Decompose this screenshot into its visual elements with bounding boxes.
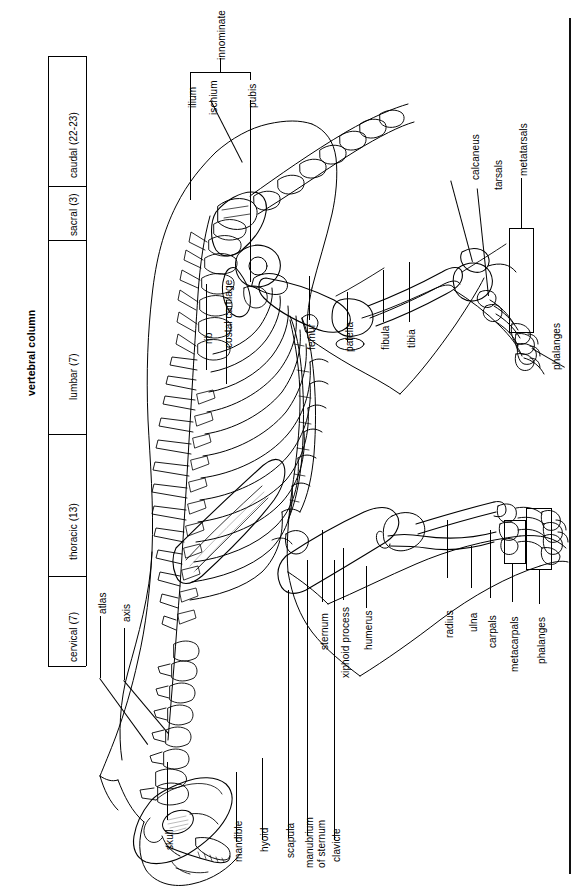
- tarsals-leader: [477, 188, 489, 296]
- metacarpals-label: metacarpals: [509, 616, 520, 672]
- axis-leader: [124, 628, 125, 680]
- innominate-bracket-bar: [190, 72, 250, 73]
- atlas-leader: [100, 616, 101, 678]
- xiphoid-process-leader: [343, 548, 344, 600]
- page-margin-rule: [569, 18, 571, 874]
- metatarsals-leader: [521, 178, 522, 228]
- innominate-bracket-right-tick: [250, 72, 251, 80]
- clavicle-label: clavicle: [331, 828, 342, 862]
- mandible-label: mandible: [233, 821, 244, 862]
- metacarpals-bracket-box: [504, 520, 526, 564]
- bracket-inner-lumbar: [86, 240, 87, 434]
- bracket-inner-thoracic: [86, 434, 87, 576]
- rib-label: rib: [203, 333, 214, 344]
- scapula-label: scapula: [285, 823, 296, 858]
- hyoid-label: hyoid: [259, 828, 270, 852]
- bracket-inner-caudal: [86, 56, 87, 186]
- vertebral-region-lumbar: lumbar (7): [68, 353, 79, 400]
- fibula-leader: [383, 270, 384, 322]
- innominate-bracket-left-tick: [190, 72, 191, 80]
- bracket-tick-bottom: [48, 666, 86, 667]
- calcaneus-leader: [450, 181, 473, 262]
- radius-leader: [447, 520, 448, 578]
- carpals-label: carpals: [487, 615, 498, 648]
- hind-phalanges-label: phalanges: [551, 323, 562, 370]
- atlas-label: atlas: [97, 592, 108, 614]
- vertebral-column-heading: vertebral column: [26, 310, 37, 396]
- ulna-leader: [471, 546, 472, 588]
- front-phalanges-bracket-box: [526, 508, 552, 570]
- metatarsals-bracket-box: [509, 228, 534, 333]
- manubrium-label-line2: of sternum: [316, 820, 327, 868]
- bracket-tick-sacral-lumbar: [48, 240, 86, 241]
- scapula-leader: [288, 590, 289, 838]
- skull-leader: [167, 762, 168, 820]
- carpals-leader: [490, 530, 491, 598]
- humerus-label: humerus: [363, 610, 374, 650]
- bracket-tick-top: [48, 56, 86, 57]
- tibia-label: tibia: [406, 329, 417, 348]
- innominate-bracket-stem: [220, 58, 221, 72]
- costal-cartilage-label: costal cartilage: [223, 280, 234, 348]
- manubrium-label: manubrium: [304, 817, 315, 868]
- tarsals-label: tarsals: [493, 160, 504, 190]
- vertebral-region-cervical: cervical (7): [68, 612, 79, 662]
- humerus-leader: [366, 566, 367, 608]
- femur-leader: [309, 276, 310, 320]
- vertebral-region-caudal: caudal (22-23): [68, 112, 79, 178]
- front-phalanges-label: phalanges: [536, 617, 547, 664]
- calcaneus-label: calcaneus: [470, 134, 481, 180]
- vertebral-region-sacral: sacral (3): [68, 193, 79, 236]
- bracket-tick-lumbar-thoracic: [48, 434, 86, 435]
- metacarpals-leader: [512, 564, 513, 602]
- sternum-label: sternum: [319, 613, 330, 650]
- femur-label: femur: [306, 324, 317, 350]
- patella-label: patella: [344, 322, 355, 352]
- figure-page: vertebral column caudal (22-23) sacral (…: [0, 0, 580, 892]
- bracket-tick-caudal-sacral: [48, 186, 86, 187]
- vertebral-bracket-spine: [48, 56, 49, 666]
- rib-leader: [206, 284, 207, 370]
- fibula-label: fibula: [380, 325, 391, 350]
- manubrium-leader: [307, 560, 308, 836]
- tibia-leader: [409, 262, 410, 322]
- radius-label: radius: [444, 610, 455, 638]
- xiphoid-process-label: xiphoid process: [340, 607, 351, 678]
- axis-label: axis: [121, 604, 132, 622]
- front-phalanges-leader: [539, 570, 540, 604]
- axis-leader-angled: [123, 680, 169, 734]
- ilium-label: ilium: [187, 87, 198, 108]
- bracket-inner-cervical: [86, 576, 87, 666]
- ulna-label: ulna: [468, 613, 479, 632]
- vertebral-region-thoracic: thoracic (13): [68, 503, 79, 560]
- skull-label: skull: [164, 829, 175, 850]
- skeleton-line-art: [0, 0, 580, 892]
- clavicle-leader: [334, 560, 335, 840]
- atlas-leader-angled: [99, 678, 148, 745]
- sternum-leader: [322, 530, 323, 602]
- ischium-label: ischium: [208, 80, 219, 115]
- bracket-inner-sacral: [86, 186, 87, 240]
- pubis-leader: [250, 100, 251, 282]
- bracket-tick-thoracic-cervical: [48, 576, 86, 577]
- metatarsals-label: metatarsals: [518, 123, 529, 176]
- innominate-label: innominate: [216, 10, 227, 60]
- pubis-label: pubis: [247, 84, 258, 108]
